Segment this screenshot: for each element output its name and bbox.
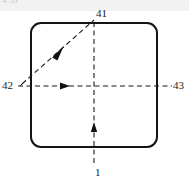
callout-label-1: 1 xyxy=(95,167,101,178)
diagonal-tail-tick xyxy=(20,80,26,86)
figure-canvas: 4.5J 41 42 43 1 xyxy=(0,0,189,182)
callout-label-43: 43 xyxy=(173,80,184,91)
diagram-drawing xyxy=(0,0,189,182)
callout-label-42: 42 xyxy=(2,80,13,91)
callout-label-41: 41 xyxy=(96,8,107,19)
